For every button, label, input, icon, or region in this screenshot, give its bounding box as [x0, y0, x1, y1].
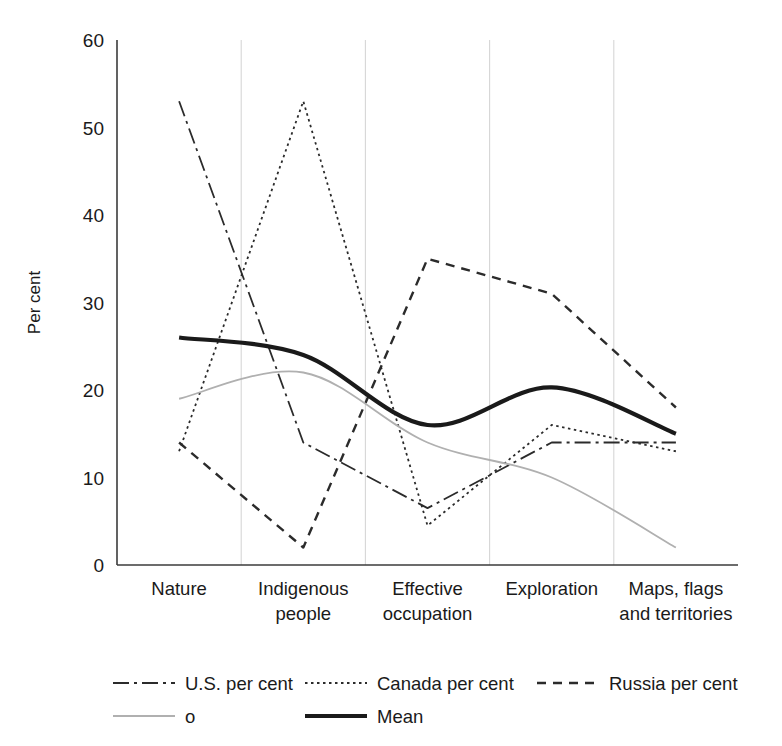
x-category-label-line: occupation [383, 603, 472, 624]
legend-entry[interactable]: o [113, 706, 195, 727]
y-tick-label: 50 [83, 118, 104, 139]
series-line-mean [179, 338, 676, 434]
x-category-label-line: people [276, 603, 332, 624]
chart-legend: U.S. per centCanada per centRussia per c… [113, 673, 738, 727]
y-tick-label: 40 [83, 205, 104, 226]
x-category-label-line: Effective [392, 578, 463, 599]
data-series-lines [179, 101, 676, 547]
x-category-label: Maps, flagsand territories [619, 578, 732, 624]
x-category-label-line: and territories [619, 603, 732, 624]
y-axis-title-text: Per cent [25, 271, 44, 335]
line-chart-canvas: 0102030405060 Per cent NatureIndigenousp… [0, 0, 782, 746]
legend-entry[interactable]: Canada per cent [305, 673, 514, 694]
grid-lines [241, 40, 614, 565]
x-category-label-line: Exploration [505, 578, 598, 599]
legend-entry-label: Russia per cent [609, 673, 738, 694]
x-category-label: Nature [151, 578, 207, 599]
legend-entry[interactable]: U.S. per cent [113, 673, 293, 694]
x-category-label-line: Indigenous [258, 578, 349, 599]
y-tick-label: 60 [83, 30, 104, 51]
x-category-label: Indigenouspeople [258, 578, 349, 624]
legend-entry-label: o [185, 706, 195, 727]
legend-entry-label: U.S. per cent [185, 673, 293, 694]
legend-entry[interactable]: Russia per cent [537, 673, 738, 694]
x-category-label-line: Nature [151, 578, 207, 599]
legend-entry-label: Canada per cent [377, 673, 514, 694]
x-category-label: Exploration [505, 578, 598, 599]
y-axis-tick-labels: 0102030405060 [83, 30, 104, 576]
x-category-label: Effectiveoccupation [383, 578, 472, 624]
y-tick-label: 0 [93, 555, 104, 576]
y-tick-label: 30 [83, 293, 104, 314]
x-axis-category-labels: NatureIndigenouspeopleEffectiveoccupatio… [151, 578, 732, 624]
legend-entry[interactable]: Mean [305, 706, 423, 727]
series-line-russia-per-cent [179, 259, 676, 548]
series-line-canada-per-cent [179, 101, 676, 525]
legend-entry-label: Mean [377, 706, 423, 727]
y-tick-label: 10 [83, 468, 104, 489]
chart-figure: 0102030405060 Per cent NatureIndigenousp… [0, 0, 782, 746]
y-tick-label: 20 [83, 380, 104, 401]
axes [117, 40, 738, 565]
x-category-label-line: Maps, flags [629, 578, 724, 599]
y-axis-title: Per cent [25, 271, 44, 335]
series-line-u-s-per-cent [179, 101, 676, 508]
